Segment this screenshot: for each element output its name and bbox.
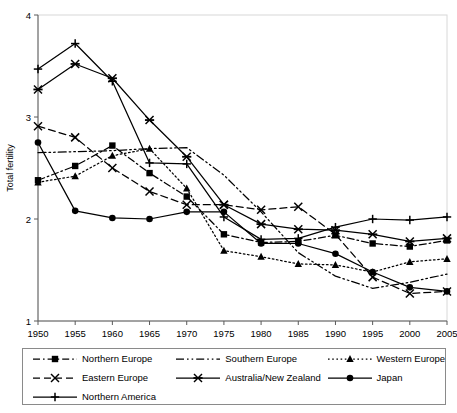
x-tick-label: 2005: [436, 328, 457, 339]
series-marker-northern-europe: [146, 170, 152, 176]
series-australia-new-zealand: [33, 60, 451, 245]
series-marker-northern-america: [34, 65, 42, 73]
x-tick-label: 1960: [102, 328, 123, 339]
legend-marker-japan: [346, 374, 353, 381]
legend-label-japan: Japan: [377, 373, 403, 383]
series-marker-japan: [35, 139, 42, 146]
series-marker-japan: [332, 250, 339, 257]
x-tick-label: 1985: [288, 328, 309, 339]
series-marker-eastern-europe: [71, 133, 79, 141]
y-axis-title: Total fertility: [5, 144, 15, 192]
legend-marker-northern-europe: [52, 355, 58, 361]
series-marker-australia-new-zealand: [145, 116, 154, 124]
series-marker-northern-america: [406, 216, 414, 224]
series-marker-northern-europe: [184, 193, 190, 199]
legend-marker-australia-new-zealand: [194, 374, 203, 382]
series-marker-northern-america: [145, 159, 153, 167]
series-line-southern-europe: [38, 148, 447, 289]
series-marker-western-europe: [443, 255, 450, 262]
plot-area-border: [38, 15, 447, 321]
series-marker-eastern-europe: [146, 187, 154, 195]
series-marker-australia-new-zealand: [182, 153, 191, 161]
legend-item-eastern-europe[interactable]: Eastern Europe: [23, 368, 174, 387]
legend-swatch-northern-america: [31, 390, 79, 404]
y-tick-label: 2: [26, 214, 31, 225]
series-marker-australia-new-zealand: [294, 225, 303, 233]
legend-item-japan[interactable]: Japan: [326, 368, 445, 387]
series-marker-northern-europe: [221, 231, 227, 237]
series-marker-northern-europe: [369, 240, 375, 246]
series-marker-japan: [183, 209, 190, 216]
series-line-western-europe: [38, 149, 447, 272]
series-eastern-europe: [34, 122, 451, 297]
series-marker-japan: [369, 269, 376, 276]
series-line-australia-new-zealand: [38, 64, 447, 241]
series-marker-australia-new-zealand: [71, 60, 80, 68]
series-marker-australia-new-zealand: [368, 230, 377, 238]
series-line-northern-europe: [38, 146, 447, 247]
legend-label-eastern-europe: Eastern Europe: [82, 373, 148, 383]
fertility-line-chart: 1234195019551960196519701975198019851990…: [0, 0, 457, 340]
series-marker-northern-europe: [72, 163, 78, 169]
legend-marker-western-europe: [346, 355, 353, 362]
legend-swatch-western-europe: [326, 352, 374, 366]
legend-item-northern-europe[interactable]: Northern Europe: [23, 349, 174, 368]
legend-label-northern-europe: Northern Europe: [82, 354, 152, 364]
legend-row-2: Eastern Europe Australia/New Zealand Jap…: [23, 368, 445, 387]
series-marker-japan: [407, 284, 414, 291]
legend-marker-northern-america: [51, 392, 59, 400]
legend-swatch-northern-europe: [31, 352, 79, 366]
series-marker-eastern-europe: [108, 164, 116, 172]
series-marker-western-europe: [71, 172, 78, 179]
series-marker-western-europe: [220, 247, 227, 254]
series-northern-europe: [35, 142, 450, 249]
series-marker-western-europe: [109, 152, 116, 159]
x-tick-label: 1950: [27, 328, 48, 339]
series-marker-eastern-europe: [183, 201, 191, 209]
legend-row-1: Northern Europe Southern Europe Western …: [23, 349, 445, 368]
x-tick-label: 1965: [139, 328, 160, 339]
legend-item-australia-new-zealand[interactable]: Australia/New Zealand: [174, 368, 325, 387]
legend-label-australia-new-zealand: Australia/New Zealand: [225, 373, 321, 383]
series-marker-western-europe: [332, 261, 339, 268]
chart-page: 1234195019551960196519701975198019851990…: [0, 0, 457, 413]
series-southern-europe: [38, 148, 447, 289]
legend-row-3: Northern America: [23, 387, 445, 406]
series-marker-western-europe: [257, 253, 264, 260]
legend-swatch-eastern-europe: [31, 371, 79, 385]
legend-item-northern-america[interactable]: Northern America: [23, 387, 175, 406]
x-tick-label: 1990: [325, 328, 346, 339]
series-marker-northern-america: [368, 215, 376, 223]
legend-label-western-europe: Western Europe: [377, 354, 445, 364]
series-marker-japan: [72, 208, 79, 215]
legend-swatch-japan: [326, 371, 374, 385]
legend-swatch-southern-europe: [174, 352, 222, 366]
series-northern-america: [34, 39, 451, 243]
chart-container: 1234195019551960196519701975198019851990…: [0, 0, 457, 340]
series-marker-japan: [444, 288, 451, 295]
series-marker-northern-europe: [109, 142, 115, 148]
chart-legend: Northern Europe Southern Europe Western …: [22, 348, 446, 405]
legend-swatch-australia-new-zealand: [174, 371, 222, 385]
x-tick-label: 1970: [176, 328, 197, 339]
series-marker-australia-new-zealand: [219, 201, 228, 209]
y-tick-label: 4: [26, 10, 31, 21]
y-tick-label: 3: [26, 112, 31, 123]
x-tick-label: 1975: [213, 328, 234, 339]
series-marker-japan: [109, 215, 116, 222]
series-japan: [35, 139, 451, 295]
legend-item-western-europe[interactable]: Western Europe: [326, 349, 445, 368]
y-tick-label: 1: [26, 316, 31, 327]
series-marker-northern-america: [443, 213, 451, 221]
x-tick-label: 1955: [65, 328, 86, 339]
series-western-europe: [34, 145, 450, 275]
series-marker-japan: [146, 216, 153, 223]
x-tick-label: 1995: [362, 328, 383, 339]
legend-item-southern-europe[interactable]: Southern Europe: [174, 349, 325, 368]
x-tick-label: 2000: [399, 328, 420, 339]
legend-label-southern-europe: Southern Europe: [225, 354, 297, 364]
x-tick-label: 1980: [251, 328, 272, 339]
legend-label-northern-america: Northern America: [82, 392, 156, 402]
series-marker-australia-new-zealand: [256, 220, 265, 228]
